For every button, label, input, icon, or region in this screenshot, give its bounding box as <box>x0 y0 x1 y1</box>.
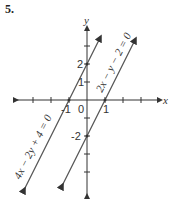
y-tick-label-1: 1 <box>78 76 84 88</box>
x-axis-label: x <box>162 94 168 106</box>
origin-label: 0 <box>78 103 84 115</box>
line-2x-y-2 <box>62 40 135 186</box>
x-tick-label-neg1: -1 <box>61 103 71 115</box>
equation-label-line2: 4x − 2y + 4 = 0 <box>11 112 54 181</box>
y-tick-label-neg2: -2 <box>71 130 81 142</box>
y-axis-label: y <box>83 14 89 26</box>
coordinate-plane: y x 0 -1 1 2 1 -2 2x − y − 2 = 0 4x − 2y… <box>0 0 178 200</box>
x-tick-label-1: 1 <box>103 103 109 115</box>
y-tick-label-2: 2 <box>77 58 83 70</box>
